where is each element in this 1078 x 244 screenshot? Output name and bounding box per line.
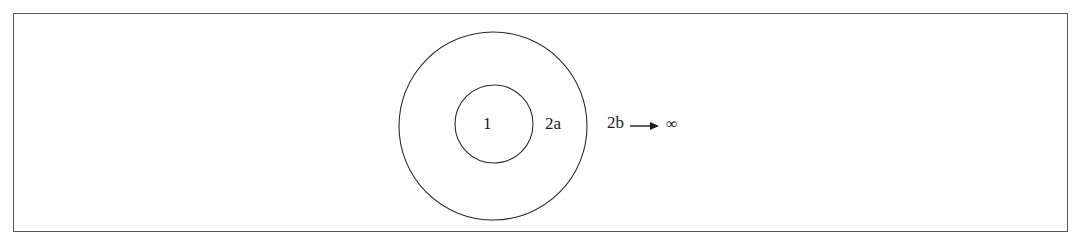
infinity-label: ∞ <box>666 116 677 132</box>
inner-circle-label: 1 <box>483 115 492 132</box>
figure-border-frame <box>13 13 1068 232</box>
scan-top-margin <box>0 0 1078 13</box>
outer-region-label-group: 2b ∞ <box>607 114 677 131</box>
rightwards-arrow-icon <box>630 118 660 130</box>
outer-region-label: 2b <box>607 114 624 131</box>
figure-canvas: 1 2a 2b ∞ <box>0 0 1078 244</box>
annulus-label: 2a <box>545 115 561 132</box>
